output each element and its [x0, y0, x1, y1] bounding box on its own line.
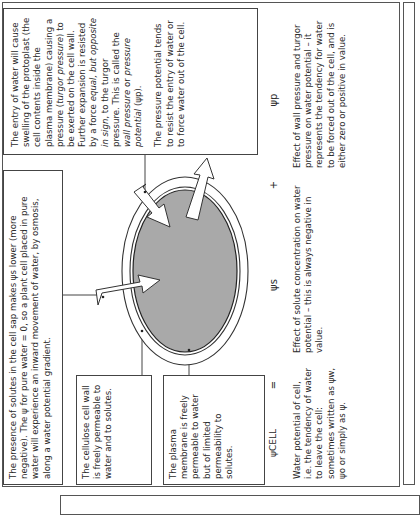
plasma-membrane-box: The plasma membrane is freely permeable … [163, 375, 265, 485]
plant-cell [122, 177, 248, 365]
equals-sign: = [268, 365, 279, 405]
cellulose-text: The cellulose cell wall is freely permea… [81, 385, 113, 479]
solute-text: The presence of solutes in the cell sap … [8, 197, 52, 479]
psi-s-description: Effect of solute concentration on water … [292, 183, 326, 353]
turgor-explanation-box: The entry of water will cause swelling o… [3, 8, 258, 155]
protoplast [133, 190, 237, 352]
solute-explanation-box: The presence of solutes in the cell sap … [3, 170, 63, 485]
psi-p-description: Effect of wall pressure and turgor press… [292, 13, 348, 168]
psi-s-symbol: ψs [268, 265, 279, 305]
plus-sign: + [268, 165, 279, 205]
pressure-potential-paragraph: The pressure potential tends to resist t… [153, 16, 187, 147]
psi-cell-symbol: ψCELL [268, 423, 278, 463]
cellulose-wall-box: The cellulose cell wall is freely permea… [76, 375, 152, 485]
psi-p-symbol: ψp [268, 80, 279, 120]
psi-cell-description: Water potential of cell, i.e. the tenden… [292, 367, 348, 479]
turgor-paragraph: The entry of water will cause swelling o… [10, 16, 144, 147]
plasma-text: The plasma membrane is freely permeable … [168, 394, 234, 479]
